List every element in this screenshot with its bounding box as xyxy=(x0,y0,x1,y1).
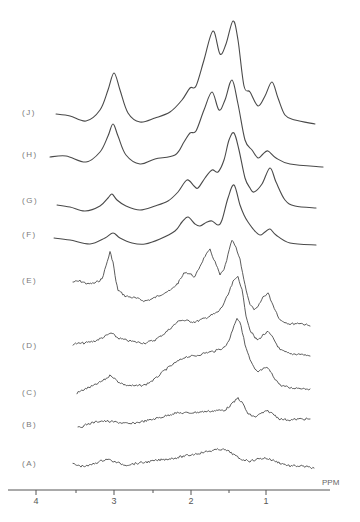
spectra-traces xyxy=(50,21,323,469)
label-G: (G) xyxy=(22,196,38,205)
spectrum-trace-g xyxy=(57,133,316,211)
spectrum-trace-f xyxy=(54,185,316,245)
spectrum-trace-b xyxy=(78,398,310,428)
x-axis-unit-label: PPM xyxy=(322,478,340,487)
label-C: (C) xyxy=(22,388,38,397)
spectrum-trace-c xyxy=(77,318,310,393)
label-F: (F) xyxy=(22,230,37,239)
spectrum-trace-e xyxy=(73,240,310,326)
x-axis: 4 3 2 1 PPM xyxy=(8,478,340,506)
spectrum-trace-j xyxy=(56,21,315,124)
nmr-spectra-plot: (J) (H) (G) (F) (E) (D) (C) (B) (A) 4 3 … xyxy=(0,0,360,522)
tick-label-4: 4 xyxy=(33,496,38,506)
tick-label-3: 3 xyxy=(111,496,116,506)
label-D: (D) xyxy=(22,341,38,350)
label-B: (B) xyxy=(22,420,37,429)
spectrum-trace-d xyxy=(73,276,310,356)
label-H: (H) xyxy=(22,150,38,159)
label-E: (E) xyxy=(22,276,37,285)
tick-label-2: 2 xyxy=(188,496,193,506)
label-J: (J) xyxy=(22,108,36,117)
tick-label-1: 1 xyxy=(263,496,268,506)
spectrum-trace-a xyxy=(73,449,314,469)
label-A: (A) xyxy=(22,459,37,468)
